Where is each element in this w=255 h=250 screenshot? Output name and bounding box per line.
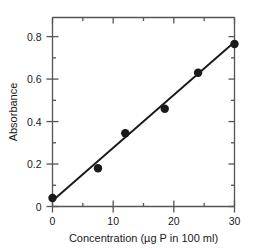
x-tick-label: 10 <box>107 215 119 227</box>
data-point-marker <box>161 105 169 113</box>
y-axis-label: Absorbance <box>7 83 19 142</box>
y-tick-label: 0.8 <box>27 31 42 43</box>
absorbance-calibration-chart: 010203000.20.40.60.8Concentration (µg P … <box>0 0 255 250</box>
y-tick-label: 0.4 <box>27 116 42 128</box>
y-tick-label: 0.2 <box>27 158 42 170</box>
chart-figure: 010203000.20.40.60.8Concentration (µg P … <box>0 0 255 250</box>
data-point-marker <box>230 40 238 48</box>
regression-line <box>53 42 235 201</box>
x-tick-label: 0 <box>50 215 56 227</box>
data-point-marker <box>121 129 129 137</box>
data-point-marker <box>194 69 202 77</box>
data-point-marker <box>94 164 102 172</box>
x-tick-label: 20 <box>168 215 180 227</box>
y-tick-label: 0 <box>36 201 42 213</box>
x-tick-label: 30 <box>229 215 241 227</box>
x-axis-label: Concentration (µg P in 100 ml) <box>69 232 218 244</box>
data-point-marker <box>48 194 56 202</box>
y-tick-label: 0.6 <box>27 73 42 85</box>
